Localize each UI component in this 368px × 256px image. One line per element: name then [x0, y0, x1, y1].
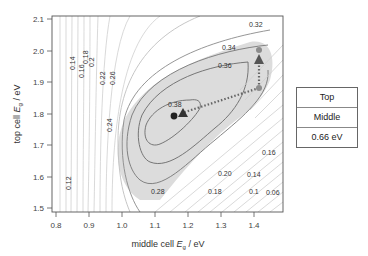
legend-row-top: Top [297, 88, 357, 107]
y-axis [47, 19, 52, 208]
legend-row-bottom-gap: 0.66 eV [297, 127, 357, 147]
svg-text:0.18: 0.18 [208, 188, 222, 195]
cell-legend-table: Top Middle 0.66 eV [296, 87, 358, 148]
svg-text:0.9: 0.9 [83, 221, 95, 230]
svg-text:0.24: 0.24 [106, 118, 113, 132]
svg-text:1.0: 1.0 [116, 221, 128, 230]
svg-text:0.06: 0.06 [266, 189, 280, 196]
svg-text:0.8: 0.8 [50, 221, 62, 230]
svg-text:0.14: 0.14 [69, 56, 76, 70]
svg-text:2.0: 2.0 [33, 47, 45, 56]
start-point-top [256, 47, 262, 53]
svg-text:0.26: 0.26 [109, 71, 116, 85]
optimum-point [171, 113, 178, 120]
svg-text:0.36: 0.36 [218, 62, 232, 69]
x-axis [56, 212, 254, 217]
y-tick-labels: 2.1 2.0 1.9 1.8 1.7 1.6 1.5 [33, 15, 45, 213]
y-axis-title: top cell Eg / eV [12, 85, 23, 144]
svg-text:0.12: 0.12 [65, 176, 72, 190]
svg-text:2.1: 2.1 [33, 15, 45, 24]
plot-area: 0.14 0.16 0.18 0.2 0.22 0.26 0.24 0.12 0… [52, 16, 283, 212]
svg-text:0.22: 0.22 [99, 71, 106, 85]
svg-text:1.9: 1.9 [33, 78, 45, 87]
svg-text:0.38: 0.38 [168, 101, 182, 108]
svg-text:0.28: 0.28 [151, 188, 165, 195]
svg-text:1.5: 1.5 [33, 204, 45, 213]
svg-text:0.14: 0.14 [247, 171, 261, 178]
svg-text:0.2: 0.2 [88, 57, 95, 67]
x-tick-labels: 0.8 0.9 1.0 1.1 1.2 1.3 1.4 [50, 221, 260, 230]
svg-text:1.1: 1.1 [149, 221, 161, 230]
svg-text:0.32: 0.32 [249, 21, 263, 28]
svg-text:0.34: 0.34 [222, 44, 236, 51]
svg-text:0.20: 0.20 [218, 170, 232, 177]
svg-text:1.3: 1.3 [215, 221, 227, 230]
svg-text:0.1: 0.1 [249, 188, 259, 195]
x-axis-title: middle cell Eg / eV [132, 239, 205, 250]
svg-text:1.6: 1.6 [33, 173, 45, 182]
legend-row-middle: Middle [297, 107, 357, 127]
start-point-lower [256, 85, 262, 91]
svg-text:1.2: 1.2 [182, 221, 194, 230]
svg-text:1.8: 1.8 [33, 110, 45, 119]
svg-text:1.7: 1.7 [33, 141, 45, 150]
svg-text:0.16: 0.16 [78, 64, 85, 78]
svg-text:1.4: 1.4 [248, 221, 260, 230]
svg-text:0.16: 0.16 [262, 149, 276, 156]
